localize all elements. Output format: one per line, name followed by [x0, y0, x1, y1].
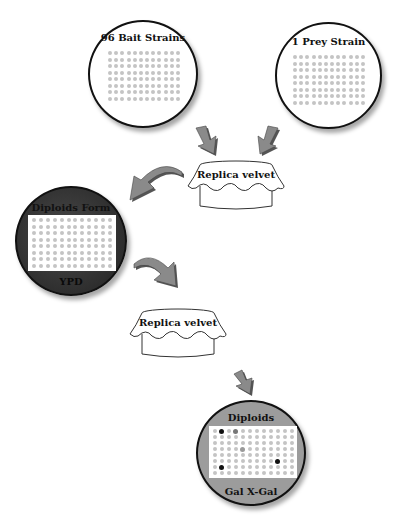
- colony: [139, 97, 143, 101]
- colony: [145, 77, 149, 81]
- colony: [299, 55, 303, 59]
- positive-colony: [240, 447, 245, 452]
- colony: [133, 97, 137, 101]
- colony: [133, 64, 137, 68]
- colony: [324, 55, 328, 59]
- colony: [32, 251, 36, 255]
- colony: [94, 264, 98, 268]
- colony: [120, 77, 124, 81]
- colony: [213, 441, 217, 445]
- colony: [213, 447, 217, 451]
- arrow-down-right-icon: [192, 126, 222, 158]
- colony: [299, 101, 303, 105]
- colony: [349, 94, 353, 98]
- colony: [133, 90, 137, 94]
- colony: [114, 51, 118, 55]
- colony: [349, 101, 353, 105]
- colony: [176, 97, 180, 101]
- colony: [80, 251, 84, 255]
- replica-velvet-1: Replica velvet: [186, 160, 286, 212]
- positive-colony: [233, 429, 238, 434]
- colony: [151, 58, 155, 62]
- colony: [157, 64, 161, 68]
- colony: [361, 88, 365, 92]
- colony: [342, 62, 346, 66]
- colony: [170, 84, 174, 88]
- colony: [283, 453, 287, 457]
- colony: [101, 251, 105, 255]
- colony: [324, 88, 328, 92]
- colony: [94, 218, 98, 222]
- colony: [227, 453, 231, 457]
- colony: [101, 225, 105, 229]
- colony: [53, 231, 57, 235]
- colony: [101, 218, 105, 222]
- colony: [127, 51, 131, 55]
- colony: [39, 251, 43, 255]
- colony: [227, 459, 231, 463]
- colony: [234, 471, 238, 475]
- colony: [176, 77, 180, 81]
- colony: [262, 453, 266, 457]
- colony: [87, 231, 91, 235]
- colony: [53, 218, 57, 222]
- colony: [318, 88, 322, 92]
- colony: [227, 441, 231, 445]
- colony: [114, 97, 118, 101]
- colony: [290, 453, 294, 457]
- colony: [170, 64, 174, 68]
- colony: [276, 435, 280, 439]
- replica-velvet-2: Replica velvet: [128, 308, 228, 360]
- colony: [336, 68, 340, 72]
- colony: [176, 71, 180, 75]
- colony: [108, 257, 112, 261]
- colony: [349, 81, 353, 85]
- colony: [114, 77, 118, 81]
- colony: [32, 264, 36, 268]
- colony: [355, 94, 359, 98]
- colony: [176, 90, 180, 94]
- colony: [170, 77, 174, 81]
- colony: [80, 257, 84, 261]
- diploid-plate-medium: YPD: [17, 276, 125, 287]
- colony: [108, 64, 112, 68]
- colony: [355, 75, 359, 79]
- colony: [60, 251, 64, 255]
- colony: [80, 238, 84, 242]
- colony: [120, 64, 124, 68]
- colony: [361, 101, 365, 105]
- colony: [73, 225, 77, 229]
- colony: [220, 447, 224, 451]
- colony: [262, 465, 266, 469]
- colony: [73, 251, 77, 255]
- diploid-colony-grid: [31, 217, 113, 269]
- colony: [293, 75, 297, 79]
- colony: [80, 218, 84, 222]
- colony: [60, 231, 64, 235]
- colony: [60, 257, 64, 261]
- colony: [60, 218, 64, 222]
- colony: [248, 453, 252, 457]
- colony: [120, 51, 124, 55]
- colony: [262, 459, 266, 463]
- colony: [133, 77, 137, 81]
- colony: [276, 465, 280, 469]
- colony: [145, 90, 149, 94]
- colony: [312, 75, 316, 79]
- colony: [312, 68, 316, 72]
- colony: [46, 251, 50, 255]
- colony: [73, 231, 77, 235]
- colony: [330, 55, 334, 59]
- colony: [318, 62, 322, 66]
- prey-plate-title: 1 Prey Strain: [277, 36, 380, 47]
- colony: [108, 84, 112, 88]
- colony: [120, 84, 124, 88]
- colony: [262, 447, 266, 451]
- colony: [114, 64, 118, 68]
- colony: [330, 88, 334, 92]
- colony: [305, 88, 309, 92]
- colony: [227, 435, 231, 439]
- colony: [248, 435, 252, 439]
- colony: [234, 447, 238, 451]
- colony: [305, 101, 309, 105]
